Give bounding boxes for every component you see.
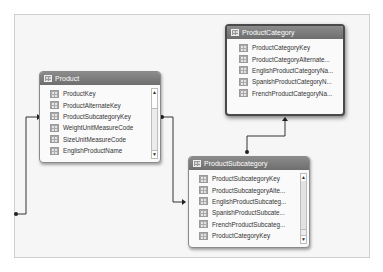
column-icon: [50, 147, 59, 155]
column-row[interactable]: SpanishProductSubcate...: [199, 207, 309, 218]
scroll-thumb[interactable]: [152, 96, 157, 109]
column-row[interactable]: ProductSubcategoryKey: [199, 173, 309, 184]
scrollbar[interactable]: ▲ ▼: [151, 88, 158, 159]
column-row[interactable]: EnglishProductSubcateg...: [199, 196, 309, 207]
table-header[interactable]: ProductCategory: [227, 26, 343, 39]
column-row[interactable]: EnglishProductCategoryNa...: [239, 65, 343, 76]
column-icon: [239, 89, 248, 97]
scrollbar[interactable]: ▲ ▼: [300, 173, 307, 244]
column-icon: [239, 78, 248, 86]
column-row[interactable]: WeightUnitMeasureCode: [50, 122, 160, 133]
table-icon: [44, 75, 52, 82]
table-title: ProductCategory: [242, 26, 295, 39]
column-icon: [199, 209, 208, 217]
column-icon: [199, 197, 208, 205]
column-icon: [199, 186, 208, 194]
column-row[interactable]: SizeUnitMeasureCode: [50, 134, 160, 145]
table-product-category[interactable]: ProductCategory ProductCategoryKey Produ…: [225, 24, 345, 116]
column-icon: [50, 124, 59, 132]
table-icon: [231, 29, 239, 36]
column-icon: [50, 90, 59, 98]
relationship-external-to-product[interactable]: [14, 114, 41, 216]
table-title: Product: [55, 72, 79, 85]
scroll-down-icon[interactable]: ▼: [301, 235, 306, 243]
column-icon: [239, 44, 248, 52]
scroll-thumb[interactable]: [301, 181, 306, 230]
column-row[interactable]: FrenchProductCategoryNa...: [239, 88, 343, 99]
scroll-down-icon[interactable]: ▼: [152, 150, 157, 158]
column-row[interactable]: EnglishProductName: [50, 145, 160, 156]
column-row[interactable]: ProductCategoryKey: [199, 230, 309, 241]
column-row[interactable]: ProductSubcategoryKey: [50, 111, 160, 122]
table-icon: [193, 160, 201, 167]
column-icon: [50, 101, 59, 109]
column-icon: [239, 66, 248, 74]
column-row[interactable]: SpanishProductCategoryN...: [239, 76, 343, 87]
column-row[interactable]: FrenchProductSubcateg...: [199, 219, 309, 230]
relationship-subcategory-to-category[interactable]: [245, 117, 288, 154]
table-header[interactable]: ProductSubcategory: [189, 157, 309, 170]
column-row[interactable]: ProductAlternateKey: [50, 99, 160, 110]
column-icon: [50, 112, 59, 120]
table-product[interactable]: Product ProductKey ProductAlternateKey P…: [39, 71, 161, 163]
column-icon: [50, 135, 59, 143]
table-product-subcategory[interactable]: ProductSubcategory ProductSubcategoryKey…: [188, 156, 310, 248]
column-icon: [239, 55, 248, 63]
column-row[interactable]: ProductSubcategoryAlte...: [199, 184, 309, 195]
column-row[interactable]: ProductCategoryAlternate...: [239, 53, 343, 64]
column-icon: [199, 232, 208, 240]
column-icon: [199, 220, 208, 228]
column-row[interactable]: ProductKey: [50, 88, 160, 99]
relationship-product-to-subcategory[interactable]: [160, 115, 186, 205]
table-title: ProductSubcategory: [204, 157, 267, 170]
column-icon: [199, 175, 208, 183]
table-header[interactable]: Product: [40, 72, 160, 85]
column-row[interactable]: ProductCategoryKey: [239, 42, 343, 53]
